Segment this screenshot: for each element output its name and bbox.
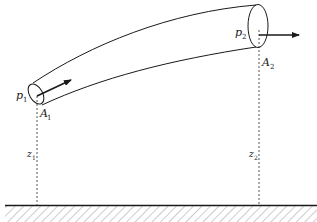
inlet-cross-section [25, 81, 47, 107]
svg-text:2: 2 [254, 154, 258, 161]
label-z2: z 2 [248, 149, 258, 161]
svg-text:p: p [235, 26, 242, 39]
tube-lower-edge [42, 47, 256, 105]
label-p2: p 2 [235, 26, 246, 41]
svg-text:1: 1 [23, 96, 27, 104]
label-A1: A 1 [39, 107, 51, 122]
tube-upper-edge [33, 5, 256, 83]
label-z1: z 1 [26, 149, 36, 161]
svg-text:2: 2 [270, 63, 274, 71]
ground-hatching [5, 206, 317, 222]
svg-text:A: A [261, 56, 270, 69]
svg-text:1: 1 [47, 114, 51, 122]
svg-text:2: 2 [242, 33, 246, 41]
label-A2: A 2 [261, 56, 274, 71]
inlet-velocity-arrow [37, 80, 71, 96]
svg-text:1: 1 [32, 154, 36, 161]
stream-tube-diagram: p 1 A 1 p 2 A 2 z 1 z 2 [0, 0, 317, 222]
outlet-cross-section [248, 5, 268, 48]
svg-text:p: p [16, 89, 23, 102]
label-p1: p 1 [16, 89, 27, 104]
